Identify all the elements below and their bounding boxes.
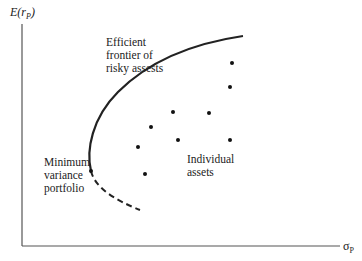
x-axis-label: σP [343,239,354,255]
asset-dot [171,110,175,114]
asset-dot [149,125,153,129]
asset-dot [136,145,140,149]
y-axis-label: E(rP) [9,5,35,21]
min-variance-label: Minimum variance portfolio [44,156,93,195]
asset-dot [207,111,211,115]
asset-dot [230,61,234,65]
asset-dot [143,172,147,176]
asset-dot [228,85,232,89]
frontier-label: Efficient frontier of risky assests [106,36,164,75]
efficient-frontier-diagram: E(rP) σP Efficient frontier of risky ass… [0,0,362,261]
individual-assets-label: Individual assets [187,153,237,178]
min-variance-point [89,169,93,173]
inefficient-frontier-dashed [91,171,140,210]
asset-dot [228,138,232,142]
asset-dot [176,138,180,142]
